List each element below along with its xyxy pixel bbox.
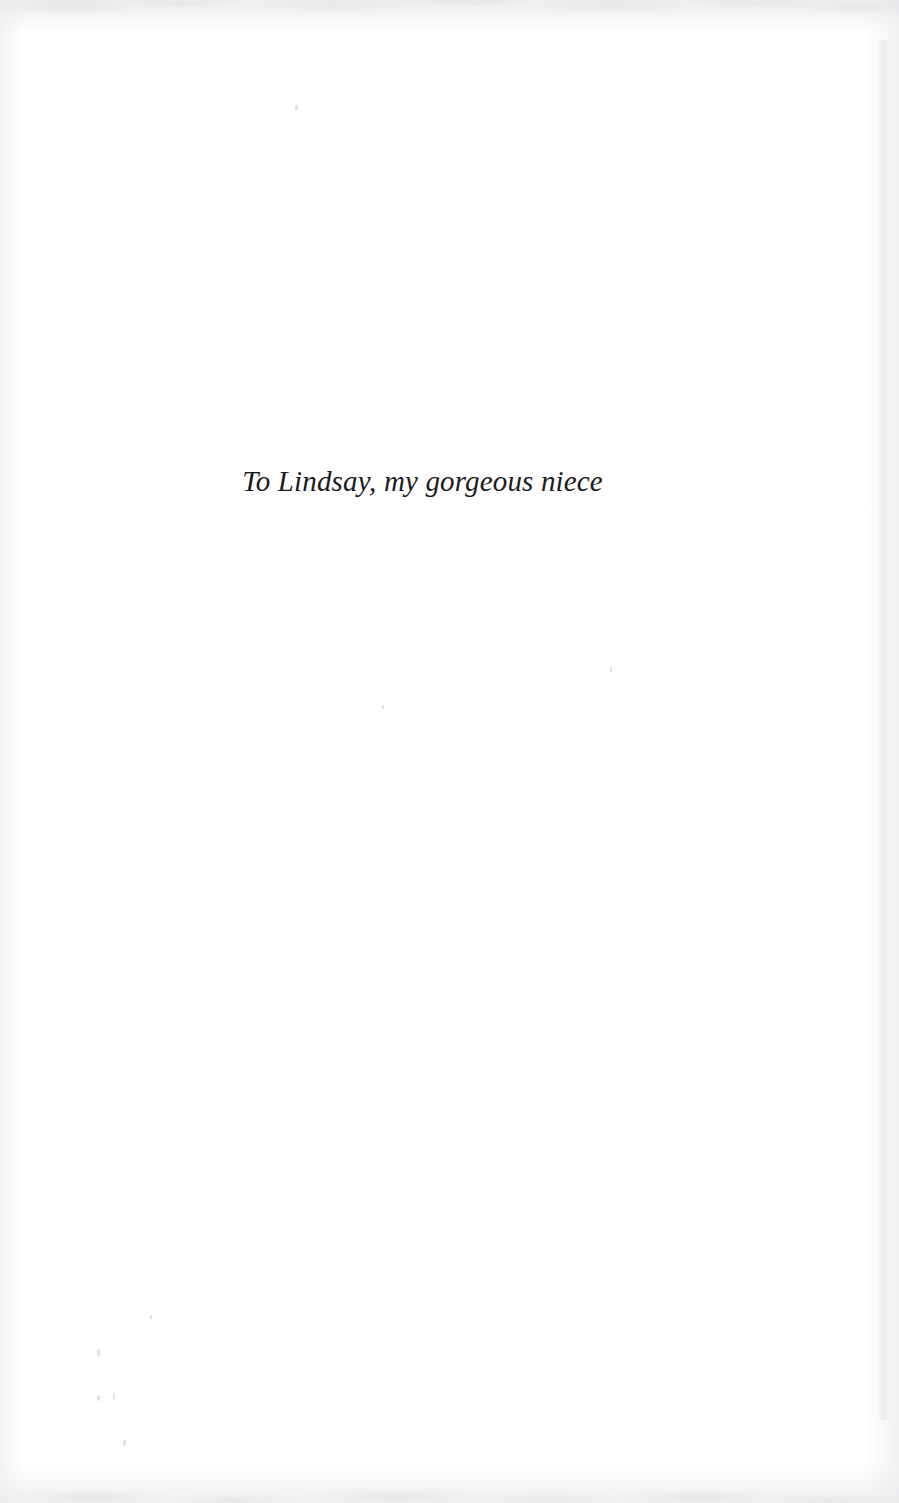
scan-artifact-bottom-edge [0, 1463, 899, 1503]
scan-speck [97, 1349, 100, 1356]
scan-artifact-right-band [877, 40, 891, 1420]
scan-artifact-right-edge [865, 0, 899, 1503]
scan-speck [382, 705, 384, 709]
scan-speck [113, 1393, 115, 1400]
scan-artifact-left-edge [0, 0, 26, 1503]
scan-artifact-top-edge [0, 0, 899, 34]
scan-speck [123, 1440, 126, 1446]
dedication-block: To Lindsay, my gorgeous niece [0, 462, 899, 500]
scan-speck [295, 105, 298, 110]
scan-speck [610, 667, 612, 672]
scan-speck [97, 1395, 100, 1401]
scan-speck [150, 1315, 152, 1319]
dedication-page: To Lindsay, my gorgeous niece [0, 0, 899, 1503]
dedication-text: To Lindsay, my gorgeous niece [242, 462, 603, 500]
